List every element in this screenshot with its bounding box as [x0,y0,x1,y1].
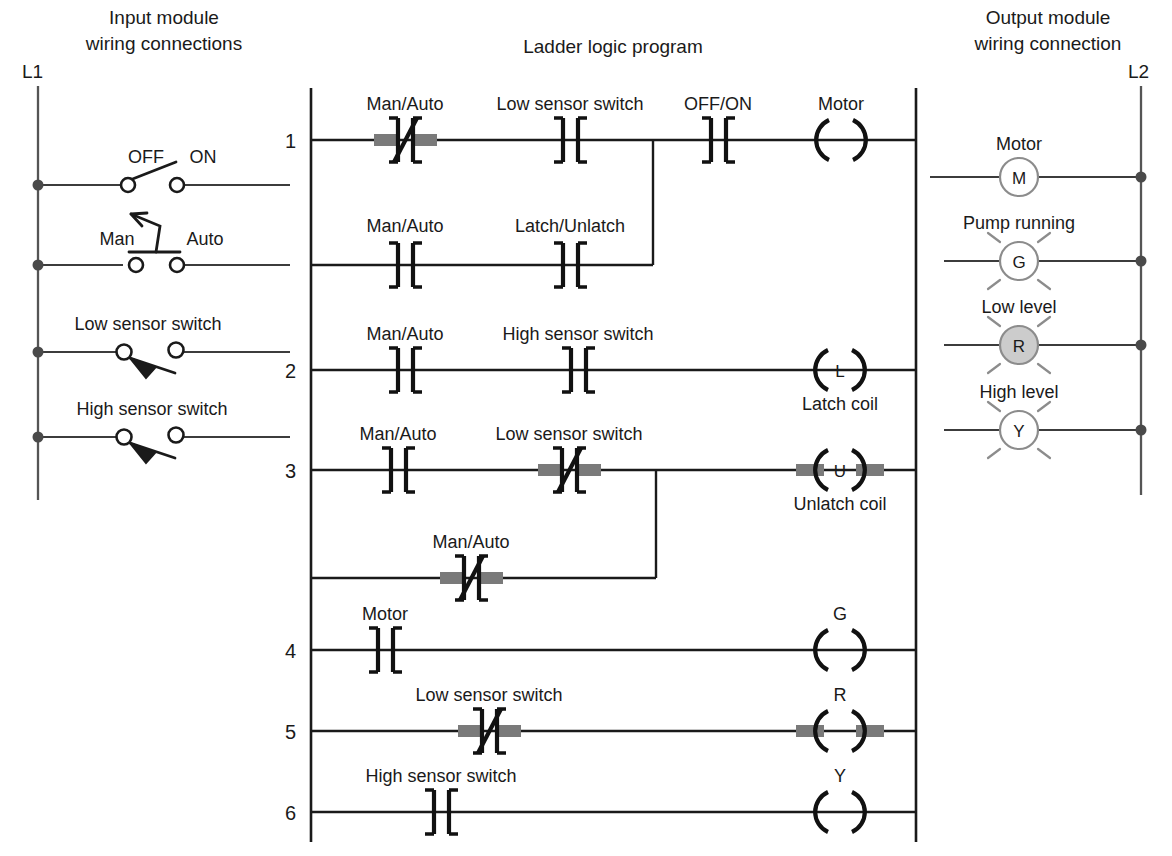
motor-output[interactable]: M [1000,158,1038,196]
diagram-canvas: Input module wiring connections Ladder l… [0,0,1172,856]
low-level-lamp-label: Low level [981,297,1056,317]
l2-node-1 [1136,172,1147,183]
rung3-contact-low-sensor-nc[interactable] [538,448,601,492]
l2-rail-label: L2 [1128,61,1149,82]
ladder-title: Ladder logic program [523,36,703,57]
r-lamp-letter: R [1013,337,1025,356]
rung1-contact-man-auto-nc[interactable] [374,118,437,162]
rung-number-5: 5 [285,721,296,743]
pump-running-lamp-label: Pump running [963,213,1075,233]
rung3-coil-highlight-right [856,464,884,476]
on-terminal [170,178,184,192]
low-sensor-terminal-left [117,345,132,360]
input-module-title-line1: Input module [109,7,219,28]
rung1-contact3-label: OFF/ON [684,94,752,114]
high-sensor-terminal-right [169,428,184,443]
l1-node-1 [33,180,44,191]
rung2-contact1-label: Man/Auto [366,324,443,344]
motor-symbol-letter: M [1012,169,1026,188]
l1-node-3 [33,347,44,358]
rung5-contact1-highlight-left [458,725,481,737]
rung6-coil-label: Y [834,766,846,786]
output-module-title-line2: wiring connection [974,33,1122,54]
man-terminal [129,258,143,272]
low-sensor-switch-label: Low sensor switch [74,314,221,334]
rung5-coil-highlight-left [796,725,824,737]
rung5-coil-label: R [834,685,847,705]
auto-terminal [170,258,184,272]
ladder-logic-diagram: Input module wiring connections Ladder l… [0,0,1172,856]
rung6-contact1-label: High sensor switch [365,766,516,786]
rung1-contact1-highlight-left [374,134,397,146]
rung-number-3: 3 [285,460,296,482]
rung2-coil-letter: L [835,362,844,381]
rung2-coil-sublabel: Latch coil [802,394,878,414]
rung1-coil-label: Motor [818,94,864,114]
rung3-branch-highlight-right [480,572,503,584]
on-label: ON [190,147,217,167]
rung1-contact1-highlight-right [414,134,437,146]
rung3-coil-unlatch[interactable]: U [796,450,884,490]
rung4-coil-label: G [833,604,847,624]
rung3-coil-highlight-left [796,464,824,476]
output-module-title-line1: Output module [986,7,1111,28]
low-sensor-switch[interactable] [117,343,184,379]
rung3-branch-contact-man-auto-nc[interactable] [440,556,503,600]
high-sensor-switch-label: High sensor switch [76,399,227,419]
rung3-contact2-label: Low sensor switch [495,424,642,444]
rung1-contact2-label: Low sensor switch [496,94,643,114]
low-sensor-terminal-right [169,343,184,358]
rung5-contact1-label: Low sensor switch [415,685,562,705]
l2-node-2 [1136,256,1147,267]
rung1-contact1-label: Man/Auto [366,94,443,114]
motor-output-label: Motor [996,134,1042,154]
rung5-contact1-highlight-right [498,725,521,737]
rung4-contact1-label: Motor [362,604,408,624]
off-terminal [121,178,135,192]
rung3-coil-sublabel: Unlatch coil [793,494,886,514]
rung3-contact2-highlight-right [578,464,601,476]
rung-number-2: 2 [285,360,296,382]
rung3-branch-contact1-label: Man/Auto [432,532,509,552]
rung-number-6: 6 [285,802,296,824]
rung5-coil-highlight-right [856,725,884,737]
off-label: OFF [128,147,164,167]
rung-number-4: 4 [285,640,296,662]
y-lamp-letter: Y [1013,422,1024,441]
man-label: Man [99,229,134,249]
rung3-branch-highlight-left [440,572,463,584]
rung1-branch-contact2-label: Latch/Unlatch [515,216,625,236]
l2-node-4 [1136,425,1147,436]
input-module-title-line2: wiring connections [85,33,242,54]
rung3-contact1-label: Man/Auto [359,424,436,444]
l1-node-4 [33,432,44,443]
g-lamp-letter: G [1012,253,1025,272]
auto-label: Auto [186,229,223,249]
rung-number-1: 1 [285,130,296,152]
high-sensor-terminal-left [117,430,132,445]
l2-node-3 [1136,340,1147,351]
rung1-branch-contact1-label: Man/Auto [366,216,443,236]
rung5-contact-low-sensor-nc[interactable] [458,709,521,753]
rung3-coil-letter: U [834,462,846,481]
high-sensor-switch[interactable] [117,428,184,464]
rung2-contact2-label: High sensor switch [502,324,653,344]
man-auto-selector[interactable] [129,213,184,272]
l1-node-2 [33,260,44,271]
rung3-contact2-highlight-left [538,464,561,476]
high-level-lamp-label: High level [979,382,1058,402]
l1-rail-label: L1 [22,61,43,82]
